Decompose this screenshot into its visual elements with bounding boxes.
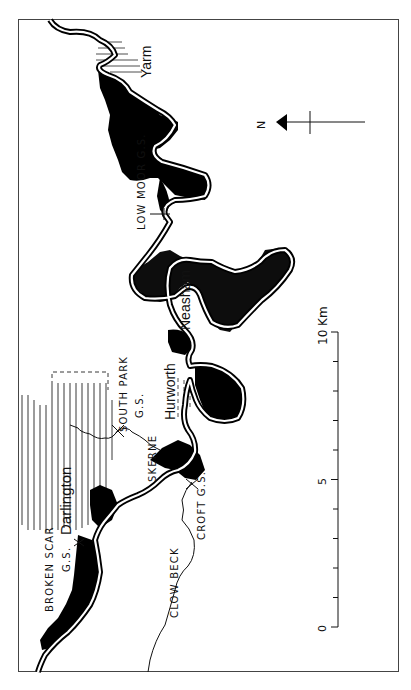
- scale-label-10-km: 10 Km: [317, 306, 329, 345]
- label-neasham: Neasham: [178, 270, 192, 330]
- scale-label-5: 5: [317, 478, 328, 485]
- label-south-park: SOUTH PARK: [119, 356, 129, 432]
- river-tees-map: [0, 0, 411, 690]
- scale-bar: [331, 332, 338, 627]
- label-broken-scar: BROKEN SCAR: [45, 526, 55, 612]
- label-clow-beck: CLOW BECK: [170, 547, 180, 618]
- floodplain: [40, 70, 295, 650]
- label-low-moor-gs: LOW MOOR G.S.: [137, 133, 147, 230]
- label-yarm: Yarm: [139, 46, 153, 78]
- label-broken-scar-gs: G.S.: [62, 547, 72, 572]
- north-arrow: [276, 111, 365, 134]
- yarm-urban-area: [96, 42, 142, 72]
- north-arrow-label: N: [256, 121, 267, 129]
- label-croft-gs: CROFT G.S.: [197, 471, 207, 540]
- label-hurworth: Hurworth: [163, 363, 177, 420]
- label-south-park-gs: G.S.: [135, 393, 145, 418]
- scale-label-0: 0: [317, 625, 328, 632]
- label-skerne: SKERNE: [148, 435, 158, 482]
- label-darlington: Darlington: [58, 467, 73, 535]
